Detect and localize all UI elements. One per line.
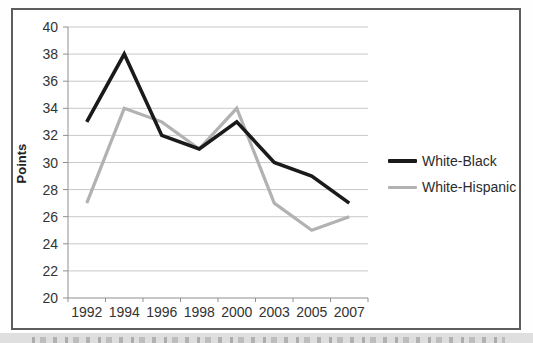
legend-item-white-hispanic: White-Hispanic bbox=[388, 174, 516, 200]
y-tick-label: 38 bbox=[42, 46, 58, 62]
y-tick-label: 40 bbox=[42, 19, 58, 35]
y-tick-label: 24 bbox=[42, 236, 58, 252]
x-tick-label: 2003 bbox=[259, 304, 290, 320]
x-tick-label: 2005 bbox=[296, 304, 327, 320]
x-tick-label: 1992 bbox=[71, 304, 102, 320]
y-tick-label: 26 bbox=[42, 209, 58, 225]
legend: White-Black White-Hispanic bbox=[388, 148, 516, 200]
white-hispanic-line-swatch bbox=[388, 186, 417, 189]
series-line-white-hispanic bbox=[87, 108, 350, 230]
y-tick-label: 20 bbox=[42, 290, 58, 306]
x-tick-label: 2007 bbox=[334, 304, 365, 320]
white-black-line-swatch bbox=[388, 159, 417, 163]
y-tick-label: 30 bbox=[42, 155, 58, 171]
cropped-caption-strip bbox=[0, 333, 533, 343]
x-tick-label: 1994 bbox=[109, 304, 140, 320]
y-tick-label: 32 bbox=[42, 127, 58, 143]
statistics-line-chart-figure: 2022242628303234363840199219941996199820… bbox=[0, 0, 533, 343]
y-tick-label: 34 bbox=[42, 100, 58, 116]
x-tick-label: 2000 bbox=[221, 304, 252, 320]
x-tick-label: 1998 bbox=[184, 304, 215, 320]
y-tick-label: 36 bbox=[42, 73, 58, 89]
legend-label-white-black: White-Black bbox=[422, 153, 497, 169]
y-tick-label: 22 bbox=[42, 263, 58, 279]
cut-off-caption-text bbox=[32, 337, 505, 343]
x-tick-label: 1996 bbox=[146, 304, 177, 320]
legend-label-white-hispanic: White-Hispanic bbox=[422, 179, 516, 195]
legend-item-white-black: White-Black bbox=[388, 148, 516, 174]
y-axis-title: Points bbox=[14, 142, 29, 186]
y-tick-label: 28 bbox=[42, 182, 58, 198]
